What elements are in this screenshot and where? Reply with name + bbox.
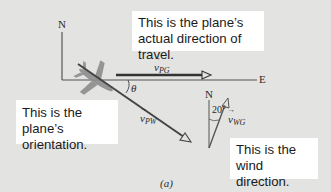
v-pg-arrowhead [202,71,211,79]
north-label: N [58,18,66,30]
v-wg-subscript: WG [233,118,245,127]
velocity-diagram: N E →vPG →vPW →vWG θ N 20° This is the p… [0,0,331,192]
theta-arc [126,80,129,93]
callout-orientation: This is the plane’s orientation. [16,100,118,144]
callout-actual-direction: This is the plane’s actual direction of … [132,11,264,51]
wind-angle-label: 20° [212,104,226,115]
callout-wind-direction: This is the wind direction. [230,138,318,179]
vector-arrow-accent: → [228,106,235,114]
east-label: E [259,73,266,85]
v-pw-subscript: PW [145,117,157,126]
v-wg-label: →vWG [228,113,245,125]
wind-north-label: N [205,88,213,100]
v-pw-label: →vPW [140,112,156,124]
theta-label: θ [131,82,136,94]
wind-angle-arc [209,119,219,121]
figure-caption: (a) [160,177,173,189]
v-pg-subscript: PG [159,66,170,75]
vector-arrow-accent: → [140,105,147,113]
